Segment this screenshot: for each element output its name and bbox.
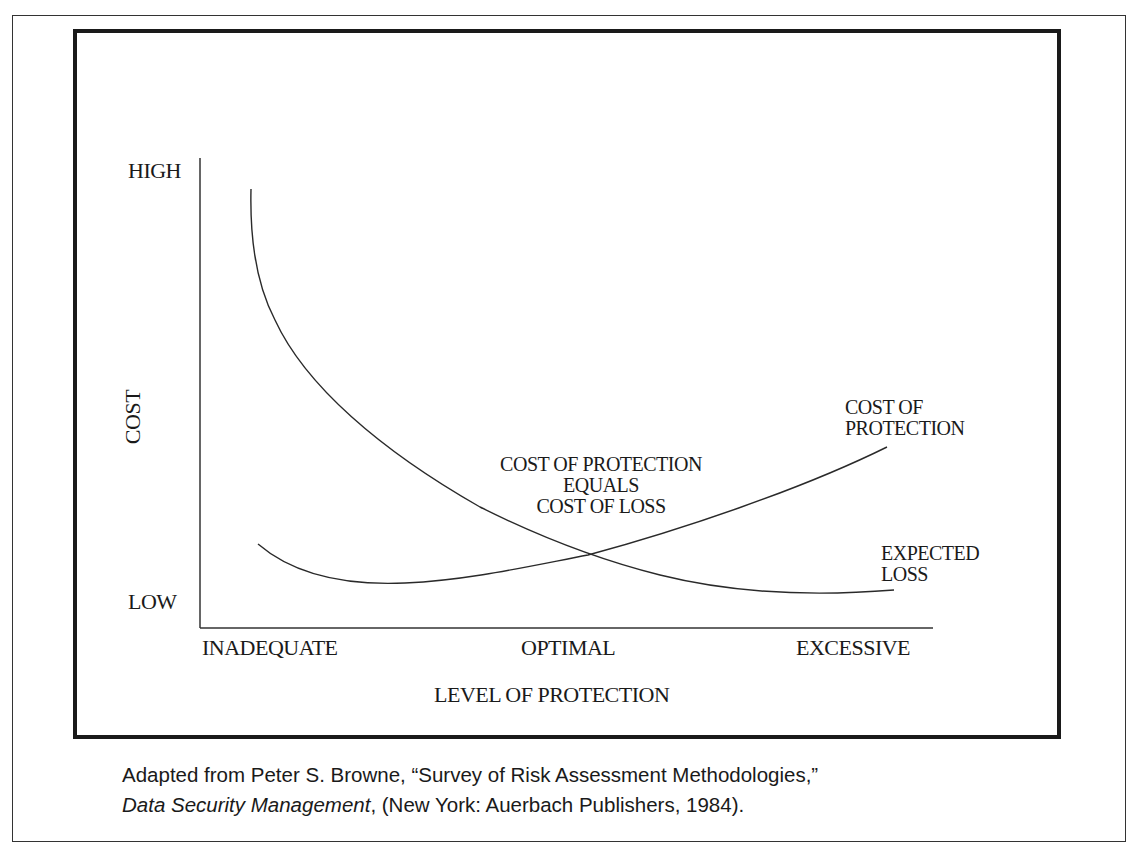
annotation-line: PROTECTION [845,418,964,439]
diagram-canvas [0,0,1141,852]
cost-of-protection-label: COST OF PROTECTION [845,397,964,439]
y-low-label: LOW [128,591,177,613]
x-tick-excessive: EXCESSIVE [796,637,910,659]
x-tick-optimal: OPTIMAL [521,637,615,659]
caption-publisher: , (New York: Auerbach Publishers, 1984). [370,793,744,816]
caption-line-2: Data Security Management, (New York: Aue… [122,790,818,820]
y-high-label: HIGH [128,160,181,182]
caption-line-1: Adapted from Peter S. Browne, “Survey of… [122,760,818,790]
annotation-line: EXPECTED [881,543,979,564]
x-axis-label: LEVEL OF PROTECTION [434,684,669,706]
annotation-line: LOSS [881,564,979,585]
annotation-line: COST OF LOSS [483,496,719,517]
intersection-annotation: COST OF PROTECTION EQUALS COST OF LOSS [483,454,719,517]
x-tick-inadequate: INADEQUATE [202,637,338,659]
annotation-line: EQUALS [483,475,719,496]
annotation-line: COST OF [845,397,964,418]
caption-publication: Data Security Management [122,793,370,816]
figure-caption: Adapted from Peter S. Browne, “Survey of… [122,760,818,820]
expected-loss-label: EXPECTED LOSS [881,543,979,585]
y-axis-label: COST [122,387,144,447]
annotation-line: COST OF PROTECTION [483,454,719,475]
expected-loss-curve [251,189,894,593]
